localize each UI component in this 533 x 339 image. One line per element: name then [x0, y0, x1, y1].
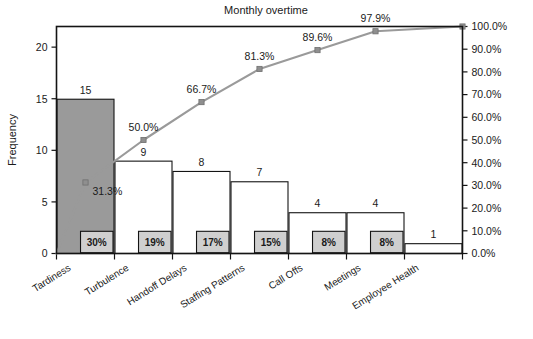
- category-label-4: Call Offs: [266, 262, 304, 292]
- percent-box-label-3: 15%: [261, 237, 281, 248]
- chart-canvas: Monthly overtime Frequency 05101520 0.0%…: [0, 0, 533, 339]
- bar-value-label-1: 9: [141, 146, 147, 158]
- pareto-chart: Monthly overtime Frequency 05101520 0.0%…: [0, 0, 533, 339]
- cumulative-marker-2: [199, 99, 204, 104]
- y-tick-label-left: 5: [42, 196, 48, 208]
- x-axis-ticks: [57, 254, 463, 260]
- cumulative-marker-1: [141, 137, 146, 142]
- cumulative-marker-3: [257, 66, 262, 71]
- y-tick-label-right: 10.0%: [472, 225, 502, 237]
- bar-value-label-2: 8: [199, 156, 205, 168]
- cumulative-label-3: 81.3%: [245, 50, 275, 62]
- category-label-1: Turbulence: [83, 262, 131, 298]
- cumulative-marker-5: [373, 29, 378, 34]
- percent-box-label-1: 19%: [145, 237, 165, 248]
- category-label-5: Meetings: [322, 262, 362, 293]
- y-tick-label-right: 90.0%: [472, 43, 502, 55]
- bar-value-label-6: 1: [431, 228, 437, 240]
- category-label-group: TardinessTurbulenceHandoff DelaysStaffin…: [30, 262, 420, 312]
- y-tick-label-right: 30.0%: [472, 179, 502, 191]
- percent-box-label-5: 8%: [380, 237, 395, 248]
- y-tick-label-left: 15: [36, 93, 48, 105]
- y-tick-label-left: 10: [36, 144, 48, 156]
- y-axis-label: Frequency: [6, 114, 18, 166]
- cumulative-label-1: 50.0%: [129, 121, 159, 133]
- percent-box-label-4: 8%: [322, 237, 337, 248]
- y-tick-label-right: 70.0%: [472, 88, 502, 100]
- chart-title: Monthly overtime: [224, 4, 308, 16]
- y-tick-label-right: 20.0%: [472, 202, 502, 214]
- y-axis-left-ticks: 05101520: [36, 41, 57, 259]
- y-axis-right-ticks: 0.0%10.0%20.0%30.0%40.0%50.0%60.0%70.0%8…: [463, 20, 508, 259]
- percent-box-label-2: 17%: [203, 237, 223, 248]
- y-tick-label-right: 80.0%: [472, 66, 502, 78]
- y-tick-label-right: 100.0%: [472, 20, 508, 32]
- y-tick-label-right: 60.0%: [472, 111, 502, 123]
- cumulative-label-0: 31.3%: [93, 185, 123, 197]
- cumulative-label-2: 66.7%: [187, 83, 217, 95]
- bar-6: [405, 244, 462, 254]
- cumulative-label-5: 97.9%: [361, 12, 391, 24]
- y-tick-label-right: 50.0%: [472, 134, 502, 146]
- bar-value-label-5: 4: [373, 197, 379, 209]
- y-tick-label-right: 0.0%: [472, 247, 496, 259]
- bar-value-label-0: 15: [80, 84, 92, 96]
- y-tick-label-left: 20: [36, 41, 48, 53]
- cumulative-label-4: 89.6%: [303, 31, 333, 43]
- bar-value-label-3: 7: [257, 166, 263, 178]
- y-tick-label-left: 0: [42, 247, 48, 259]
- y-tick-label-right: 40.0%: [472, 157, 502, 169]
- bar-value-label-4: 4: [315, 197, 321, 209]
- cumulative-marker-0: [83, 180, 88, 185]
- category-label-0: Tardiness: [30, 262, 72, 294]
- percent-box-label-0: 30%: [87, 237, 107, 248]
- category-label-3: Staffing Patterns: [178, 262, 246, 310]
- cumulative-marker-4: [315, 48, 320, 53]
